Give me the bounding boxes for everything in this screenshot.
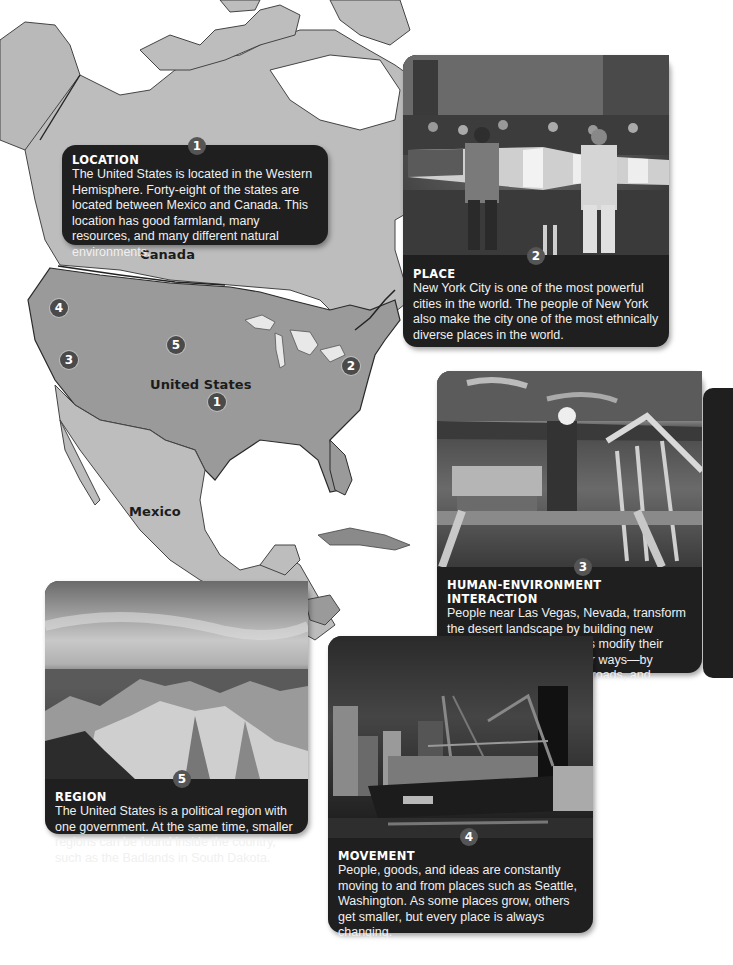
place-photo (403, 55, 669, 255)
port-illustration (328, 636, 593, 838)
human-environment-card: 3 HUMAN-ENVIRONMENT INTERACTION People n… (437, 371, 702, 673)
construction-photo (437, 371, 702, 567)
location-text: The United States is located in the West… (72, 167, 320, 260)
seattle-port-photo (328, 636, 593, 838)
region-title: REGION (55, 790, 300, 804)
map-marker-5[interactable]: 5 (167, 336, 185, 354)
place-card: 2 PLACE New York City is one of the most… (403, 55, 669, 347)
map-label-mexico: Mexico (129, 504, 181, 519)
offpage-card-edge (703, 388, 733, 678)
map-marker-1[interactable]: 1 (208, 393, 226, 411)
human-environment-number-badge: 3 (574, 558, 592, 576)
construction-illustration (437, 371, 702, 567)
place-number-badge: 2 (527, 247, 545, 265)
map-marker-4[interactable]: 4 (50, 299, 68, 317)
region-text: The United States is a political region … (55, 804, 300, 866)
badlands-illustration (45, 581, 308, 779)
movement-number-badge: 4 (460, 828, 478, 846)
movement-card: 4 MOVEMENT People, goods, and ideas are … (328, 636, 593, 933)
map-marker-2[interactable]: 2 (342, 357, 360, 375)
badlands-photo (45, 581, 308, 779)
place-title: PLACE (413, 267, 661, 281)
place-text: New York City is one of the most powerfu… (413, 281, 661, 343)
movement-text: People, goods, and ideas are constantly … (338, 863, 587, 941)
location-title: LOCATION (72, 153, 320, 167)
location-card: 1 LOCATION The United States is located … (62, 145, 328, 245)
parade-flag-illustration (403, 55, 669, 255)
region-number-badge: 5 (173, 770, 191, 788)
region-card: 5 REGION The United States is a politica… (45, 581, 308, 834)
movement-title: MOVEMENT (338, 849, 587, 863)
map-label-united-states: United States (150, 377, 252, 392)
human-environment-title: HUMAN-ENVIRONMENT INTERACTION (447, 578, 696, 606)
map-marker-3[interactable]: 3 (60, 351, 78, 369)
